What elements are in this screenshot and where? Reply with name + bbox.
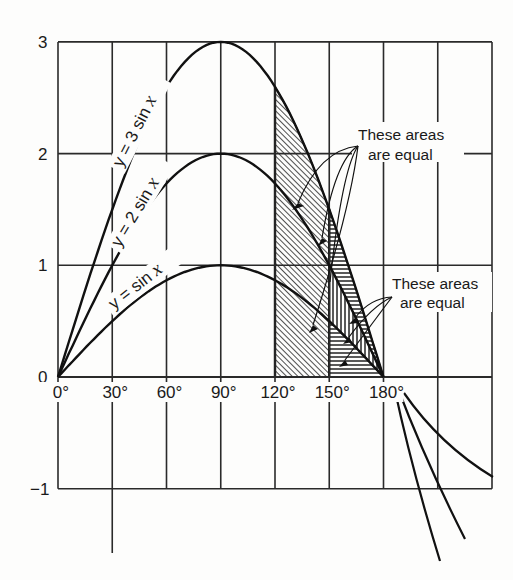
- x-axis-labels: 0°30°60°90°120°150°180°: [38, 382, 404, 402]
- curve-label-sin: y = sin x: [100, 244, 184, 317]
- curve-label-3sin-text: y = 3 sin: [109, 100, 157, 170]
- extension-lines: [394, 386, 493, 561]
- curve-label-2sin-text: y = 2 sin: [107, 182, 159, 251]
- x-tick-label: 60°: [157, 383, 183, 402]
- y-tick-label: 3: [38, 33, 47, 52]
- x-tick-label: 0°: [53, 383, 69, 402]
- annotation-bottom-line1: These areas: [392, 275, 478, 292]
- x-tick-label: 120°: [260, 383, 295, 402]
- y-axis-labels: 3210−1: [30, 33, 49, 499]
- svg-text:y = 2 sin x: y = 2 sin x: [105, 173, 163, 250]
- sine-area-chart: y = 3 sin x y = 2 sin x y = sin x 3210−1…: [0, 0, 513, 580]
- annotation-bottom-line2: are equal: [400, 294, 465, 311]
- shaded-region-1: [275, 87, 329, 377]
- annotation-top-line1: These areas: [358, 126, 444, 143]
- x-tick-label: 150°: [315, 383, 350, 402]
- x-tick-label: 90°: [211, 383, 237, 402]
- x-tick-label: 30°: [102, 383, 128, 402]
- y-tick-label: 2: [38, 145, 47, 164]
- y-tick-label: −1: [30, 480, 49, 499]
- y-tick-label: 1: [38, 256, 47, 275]
- x-tick-label: 180°: [369, 383, 404, 402]
- annotation-top-line2: are equal: [368, 146, 433, 163]
- svg-text:y = 3 sin x: y = 3 sin x: [107, 91, 161, 170]
- extension-line-2sin: [397, 386, 465, 539]
